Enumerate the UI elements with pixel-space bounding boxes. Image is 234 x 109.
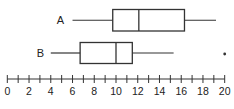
box-b: B bbox=[37, 43, 226, 64]
x-axis: 02468101214161820 bbox=[4, 75, 230, 97]
box-plot-chart: AB 02468101214161820 bbox=[0, 0, 234, 109]
outlier-point bbox=[223, 53, 226, 56]
box-a: A bbox=[57, 10, 216, 32]
tick-label: 20 bbox=[219, 85, 231, 97]
series-label: A bbox=[57, 14, 65, 26]
tick-label: 4 bbox=[48, 85, 54, 97]
tick-label: 10 bbox=[110, 85, 122, 97]
tick-label: 14 bbox=[154, 85, 166, 97]
iqr-box bbox=[80, 43, 132, 64]
tick-label: 18 bbox=[197, 85, 209, 97]
boxes: AB bbox=[37, 10, 226, 64]
tick-label: 0 bbox=[4, 85, 10, 97]
tick-label: 16 bbox=[175, 85, 187, 97]
tick-label: 2 bbox=[26, 85, 32, 97]
tick-label: 6 bbox=[70, 85, 76, 97]
series-label: B bbox=[37, 47, 44, 59]
tick-label: 8 bbox=[91, 85, 97, 97]
tick-label: 12 bbox=[132, 85, 144, 97]
iqr-box bbox=[113, 10, 185, 32]
